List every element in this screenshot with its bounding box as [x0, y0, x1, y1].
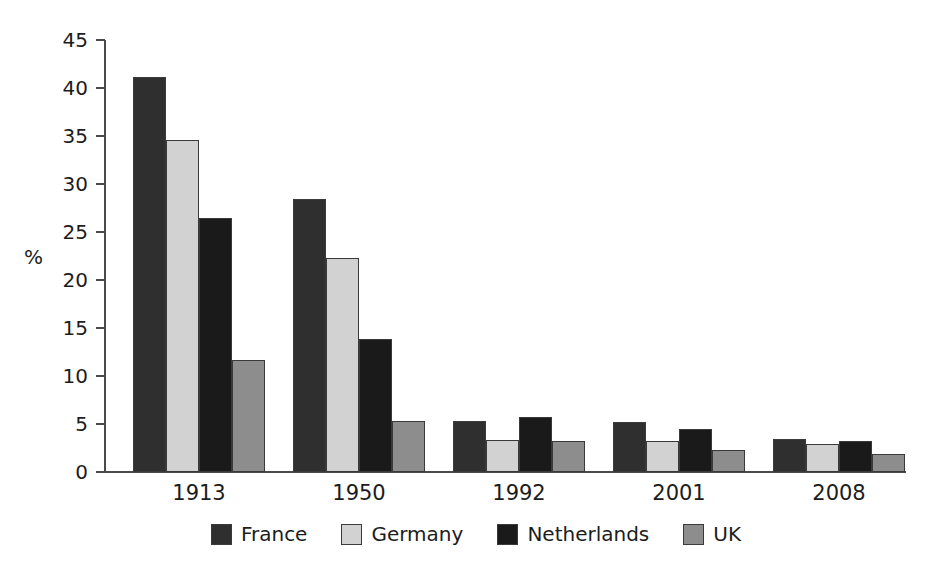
y-axis-tick-label-wrap: 40	[0, 78, 88, 98]
bar-netherlands-1992	[519, 417, 552, 472]
legend-label: UK	[713, 524, 741, 545]
bar-uk-2001	[712, 450, 745, 472]
y-axis-tick	[96, 375, 105, 377]
y-axis-tick	[96, 471, 105, 473]
bar-netherlands-1950	[359, 339, 392, 472]
y-axis-tick	[96, 135, 105, 137]
x-axis-category-label: 2008	[769, 481, 909, 505]
x-axis-category-label: 2001	[609, 481, 749, 505]
y-axis-tick-label: 45	[28, 30, 88, 50]
bar-germany-1992	[486, 440, 519, 472]
bar-germany-2008	[806, 444, 839, 472]
legend-label: Germany	[371, 524, 463, 545]
legend-label: France	[241, 524, 308, 545]
bar-france-1950	[293, 199, 326, 472]
chart-legend: FranceGermanyNetherlandsUK	[0, 524, 952, 545]
legend-item-uk: UK	[683, 524, 741, 545]
y-axis-label: %	[24, 247, 43, 267]
bar-france-1992	[453, 421, 486, 472]
x-axis-category-label: 1992	[449, 481, 589, 505]
bar-france-2001	[613, 422, 646, 472]
bar-germany-2001	[646, 441, 679, 472]
y-axis-tick-label: 15	[28, 318, 88, 338]
plot-area	[105, 40, 905, 472]
legend-item-netherlands: Netherlands	[497, 524, 649, 545]
y-axis-tick-label-wrap: 5	[0, 414, 88, 434]
y-axis-tick-label-wrap: 30	[0, 174, 88, 194]
x-axis-category-label: 1913	[129, 481, 269, 505]
y-axis-tick-label-wrap: 35	[0, 126, 88, 146]
bar-france-1913	[133, 77, 166, 472]
bar-france-2008	[773, 439, 806, 472]
legend-label: Netherlands	[527, 524, 649, 545]
bar-chart: % 454035302520151050 1913195019922001200…	[0, 0, 952, 578]
bar-uk-1913	[232, 360, 265, 472]
y-axis-tick	[96, 423, 105, 425]
legend-swatch-icon	[341, 524, 362, 545]
y-axis-tick-label-wrap: 20	[0, 270, 88, 290]
bar-uk-2008	[872, 454, 905, 472]
y-axis-tick-label: 35	[28, 126, 88, 146]
bar-netherlands-2008	[839, 441, 872, 472]
bar-uk-1950	[392, 421, 425, 472]
bar-netherlands-2001	[679, 429, 712, 472]
legend-item-germany: Germany	[341, 524, 463, 545]
y-axis-tick-label-wrap: 15	[0, 318, 88, 338]
y-axis-tick-label: 25	[28, 222, 88, 242]
y-axis-tick-label: 10	[28, 366, 88, 386]
y-axis-tick-label: 30	[28, 174, 88, 194]
y-axis-tick-label-wrap: 25	[0, 222, 88, 242]
y-axis-tick-label-wrap: 10	[0, 366, 88, 386]
y-axis-tick-label: 40	[28, 78, 88, 98]
x-axis-category-label: 1950	[289, 481, 429, 505]
legend-swatch-icon	[211, 524, 232, 545]
y-axis-tick	[96, 39, 105, 41]
y-axis-tick-label: 5	[28, 414, 88, 434]
y-axis-tick-label-wrap: 45	[0, 30, 88, 50]
legend-item-france: France	[211, 524, 308, 545]
y-axis-tick	[96, 327, 105, 329]
y-axis-tick-label: 0	[28, 462, 88, 482]
y-axis-tick	[96, 183, 105, 185]
bar-uk-1992	[552, 441, 585, 472]
y-axis-tick-label-wrap: 0	[0, 462, 88, 482]
bar-netherlands-1913	[199, 218, 232, 472]
legend-swatch-icon	[683, 524, 704, 545]
bar-germany-1913	[166, 140, 199, 472]
y-axis-tick-label: 20	[28, 270, 88, 290]
y-axis-tick	[96, 279, 105, 281]
legend-swatch-icon	[497, 524, 518, 545]
y-axis-tick	[96, 231, 105, 233]
y-axis-tick	[96, 87, 105, 89]
bar-germany-1950	[326, 258, 359, 472]
